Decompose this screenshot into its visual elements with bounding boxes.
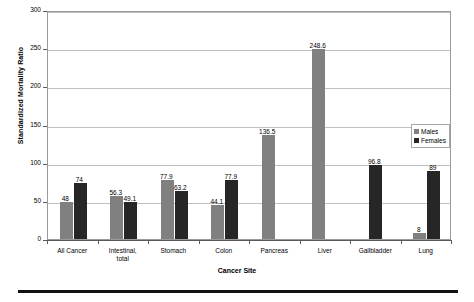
- x-axis-tick: [199, 240, 200, 244]
- bar-value-label: 89: [417, 164, 448, 172]
- gridline: [48, 50, 450, 51]
- gridline: [48, 12, 450, 13]
- x-axis-tick: [300, 240, 301, 244]
- x-axis-category-label: Liver: [300, 247, 351, 255]
- bar-value-label: 74: [64, 176, 95, 184]
- legend-label-males: Males: [421, 127, 438, 136]
- bar-value-label: 96.8: [359, 158, 390, 166]
- legend-swatch-females-icon: [414, 138, 419, 143]
- bar: [124, 202, 137, 239]
- y-axis-tick-label: 250: [15, 45, 41, 52]
- bar-value-label: 248.6: [302, 42, 333, 50]
- bar: [175, 191, 188, 239]
- x-axis-tick: [451, 240, 452, 244]
- x-axis-category-label: All Cancer: [47, 247, 98, 255]
- x-axis-category-label: Lung: [401, 247, 452, 255]
- x-axis-category-label: Pancreas: [249, 247, 300, 255]
- x-axis-tick: [249, 240, 250, 244]
- x-axis-title: Cancer Site: [0, 267, 474, 274]
- x-axis-tick: [47, 240, 48, 244]
- gridline: [48, 203, 450, 204]
- bar-value-label: 136.5: [252, 128, 283, 136]
- x-axis-tick: [350, 240, 351, 244]
- bar-value-label: 77.9: [151, 173, 182, 181]
- chart-figure: Standardized Mortality Ratio 05010015020…: [0, 0, 474, 302]
- bar-value-label: 49.1: [114, 195, 145, 203]
- x-axis-tick: [98, 240, 99, 244]
- x-axis-category-label: Gallbladder: [350, 247, 401, 255]
- x-axis-category-label: Stomach: [148, 247, 199, 255]
- bar: [60, 202, 73, 239]
- y-axis-tick-label: 200: [15, 83, 41, 90]
- footer-rule: [18, 290, 458, 293]
- bar: [369, 165, 382, 239]
- bar-value-label: 44.1: [201, 198, 232, 206]
- y-axis-tick-label: 300: [15, 7, 41, 14]
- x-axis-tick: [148, 240, 149, 244]
- plot-area: [47, 11, 451, 240]
- gridline: [48, 127, 450, 128]
- gridline: [48, 88, 450, 89]
- y-axis-tick-label: 0: [15, 236, 41, 243]
- bar: [74, 183, 87, 239]
- chart-legend: Males Females: [411, 124, 450, 148]
- legend-label-females: Females: [421, 136, 446, 145]
- bar: [312, 49, 325, 239]
- x-axis-tick: [401, 240, 402, 244]
- y-axis-tick-label: 50: [15, 198, 41, 205]
- y-axis-tick-label: 100: [15, 160, 41, 167]
- legend-item-females[interactable]: Females: [414, 136, 446, 145]
- bar: [211, 205, 224, 239]
- bar-value-label: 63.2: [165, 184, 196, 192]
- legend-swatch-males-icon: [414, 129, 419, 134]
- legend-item-males[interactable]: Males: [414, 127, 446, 136]
- x-axis-category-label: Colon: [199, 247, 250, 255]
- y-axis-tick-label: 150: [15, 122, 41, 129]
- bar: [262, 135, 275, 239]
- bar-value-label: 77.9: [215, 173, 246, 181]
- bar-value-label: 8: [403, 226, 434, 234]
- x-axis-category-label: Intestinal,total: [98, 247, 149, 263]
- bar-value-label: 48: [50, 195, 81, 203]
- bar: [225, 180, 238, 239]
